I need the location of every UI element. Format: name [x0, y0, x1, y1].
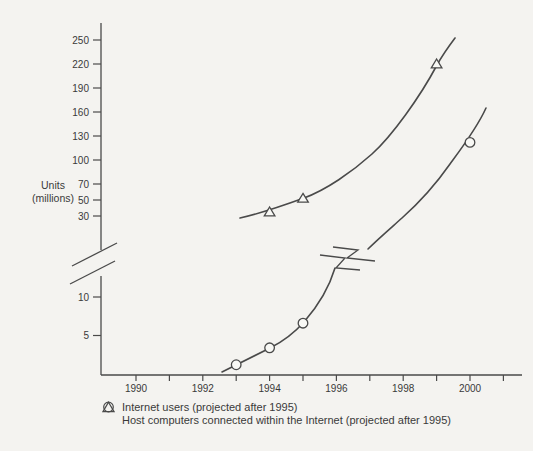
host-computers-curve-lower: [222, 268, 335, 372]
x-axis-tick-label: 1992: [192, 383, 215, 394]
marker-layer: [231, 59, 474, 370]
internet-users-curve: [240, 38, 455, 218]
host-computers-curve-upper: [368, 108, 486, 249]
y-axis-tick-label: 160: [72, 107, 89, 118]
circle-marker: [265, 343, 275, 353]
chart-area: 2502201901601301007050301051990199219941…: [0, 0, 533, 451]
x-axis-tick-label: 1996: [325, 383, 348, 394]
y-axis-tick-label: 5: [83, 330, 89, 341]
y-axis-tick-label: 220: [72, 59, 89, 70]
legend-label: Host computers connected within the Inte…: [122, 414, 451, 427]
broken-axis-line-chart: 2502201901601301007050301051990199219941…: [0, 0, 533, 451]
tick-layer: 2502201901601301007050301051990199219941…: [72, 35, 503, 395]
circle-marker: [231, 360, 241, 370]
circle-outline-icon: [102, 415, 115, 427]
x-axis-tick-label: 2000: [459, 383, 482, 394]
x-axis-tick-label: 1990: [125, 383, 148, 394]
curve-break-icon: [320, 247, 375, 270]
y-axis-break-slash-icon: [72, 243, 117, 266]
legend-label: Internet users (projected after 1995): [122, 401, 297, 414]
y-axis-title: Units (millions): [24, 179, 82, 205]
circle-marker: [298, 318, 308, 328]
legend: Internet users (projected after 1995) Ho…: [102, 401, 451, 427]
y-axis-title-line1: Units: [24, 179, 82, 192]
y-axis-tick-label: 100: [72, 155, 89, 166]
circle-marker: [465, 138, 475, 148]
y-axis-tick-label: 130: [72, 131, 89, 142]
x-axis-tick-label: 1994: [258, 383, 281, 394]
x-axis-tick-label: 1998: [392, 383, 415, 394]
series-curves: [222, 38, 486, 372]
y-axis-tick-label: 190: [72, 83, 89, 94]
legend-item-internet-users: Internet users (projected after 1995): [102, 401, 451, 414]
legend-item-host-computers: Host computers connected within the Inte…: [102, 414, 451, 427]
y-axis-tick-label: 10: [78, 292, 90, 303]
y-axis-title-line2: (millions): [24, 192, 82, 205]
curve-break-lower-zigzag: [320, 255, 360, 270]
y-axis-tick-label: 250: [72, 35, 89, 46]
y-axis-break-slash-icon: [70, 261, 115, 284]
axes: [70, 23, 522, 375]
y-axis-tick-label: 30: [78, 211, 90, 222]
